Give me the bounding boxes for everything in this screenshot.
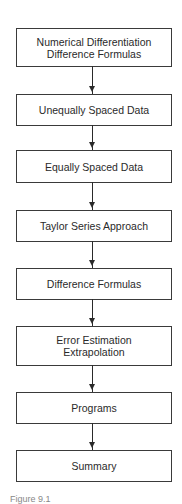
node-numerical-differentiation: Numerical Differentiation Difference For…	[16, 28, 172, 67]
node-unequally-spaced-data: Unequally Spaced Data	[16, 94, 172, 126]
node-programs: Programs	[16, 392, 172, 424]
node-label: Summary	[72, 460, 117, 472]
arrow-down-icon	[92, 365, 93, 392]
arrow-down-icon	[92, 125, 93, 150]
node-equally-spaced-data: Equally Spaced Data	[16, 150, 172, 183]
node-label: Numerical Differentiation	[37, 36, 152, 48]
node-label: Equally Spaced Data	[45, 161, 143, 173]
arrow-down-icon	[92, 66, 93, 94]
node-label: Taylor Series Approach	[40, 220, 148, 232]
node-label: Programs	[71, 402, 117, 414]
node-summary: Summary	[16, 450, 172, 482]
node-difference-formulas: Difference Formulas	[16, 268, 172, 300]
node-label: Difference Formulas	[47, 48, 141, 60]
arrow-down-icon	[92, 182, 93, 210]
node-label: Error Estimation	[56, 334, 131, 346]
node-error-estimation: Error Estimation Extrapolation	[16, 326, 172, 366]
arrow-down-icon	[92, 423, 93, 450]
node-label: Extrapolation	[63, 346, 124, 358]
node-taylor-series-approach: Taylor Series Approach	[16, 210, 172, 242]
arrow-down-icon	[92, 241, 93, 268]
arrow-down-icon	[92, 299, 93, 326]
node-label: Unequally Spaced Data	[39, 104, 149, 116]
node-label: Difference Formulas	[47, 278, 141, 290]
figure-caption: Figure 9.1	[10, 494, 51, 504]
